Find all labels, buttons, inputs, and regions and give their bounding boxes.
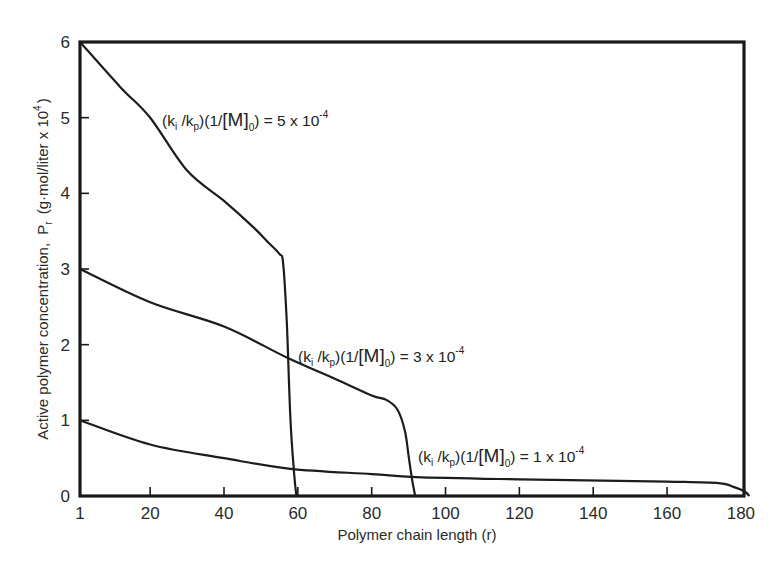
y-tick-label: 5 xyxy=(61,109,70,128)
curve-series-3 xyxy=(80,420,749,496)
x-tick-label: 120 xyxy=(505,504,533,523)
x-tick-label: 100 xyxy=(431,504,459,523)
y-tick-label: 2 xyxy=(61,336,70,355)
y-tick-label: 3 xyxy=(61,260,70,279)
curve-series-1 xyxy=(80,42,296,496)
x-tick-label: 180 xyxy=(727,504,755,523)
x-tick-label: 20 xyxy=(141,504,160,523)
y-tick-label: 0 xyxy=(61,487,70,506)
curve-label-2: (ki /kp)(1/[M]0) = 3 x 10-4 xyxy=(298,345,465,369)
curve-annotations: (ki /kp)(1/[M]0) = 5 x 10-4(ki /kp)(1/[M… xyxy=(162,109,585,469)
y-tick-label: 6 xyxy=(61,33,70,52)
data-curves xyxy=(80,42,749,496)
curve-label-1: (ki /kp)(1/[M]0) = 5 x 10-4 xyxy=(162,109,329,133)
y-label-prefix: Active polymer concentration, xyxy=(34,243,51,440)
plot-border xyxy=(80,42,744,496)
y-label-units: (g·mol/liter x 10 xyxy=(34,111,51,214)
y-label-symbol-sub: r xyxy=(43,221,54,225)
x-axis-label: Polymer chain length (r) xyxy=(337,526,496,543)
y-tick-label: 1 xyxy=(61,411,70,430)
y-label-symbol: P xyxy=(34,225,51,235)
curve-label-3: (ki /kp)(1/[M]0) = 1 x 10-4 xyxy=(418,445,585,469)
x-tick-label: 80 xyxy=(362,504,381,523)
plot-frame xyxy=(80,42,744,496)
x-tick-label: 60 xyxy=(288,504,307,523)
y-tick-label: 4 xyxy=(61,184,70,203)
x-tick-label: 140 xyxy=(579,504,607,523)
y-axis-label: Active polymer concentration, Pr (g·mol/… xyxy=(32,98,55,439)
x-tick-label: 40 xyxy=(215,504,234,523)
x-tick-label: 1 xyxy=(75,504,84,523)
y-axis-ticks: 0123456 xyxy=(61,33,89,506)
x-tick-label: 160 xyxy=(653,504,681,523)
y-label-units-close: ) xyxy=(34,98,51,103)
y-label-units-sup: 4 xyxy=(32,105,43,111)
chart: 120406080100120140160180 0123456 (ki /kp… xyxy=(0,0,782,573)
